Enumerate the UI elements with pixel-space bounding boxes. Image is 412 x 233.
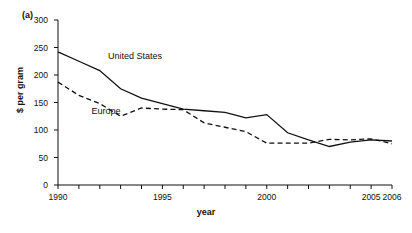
y-tick-label: 150: [20, 99, 48, 107]
series-label-europe: Europe: [91, 106, 120, 116]
chart-figure: (a) $ per gram year 050100150200250300 1…: [0, 0, 412, 233]
y-tick-label: 100: [20, 126, 48, 134]
y-tick-label: 300: [20, 16, 48, 24]
x-tick-label: 2006: [372, 193, 412, 201]
chart-axes: [58, 20, 392, 185]
series-line-united-states: [58, 52, 392, 147]
y-tick-label: 250: [20, 44, 48, 52]
axis-ticks: [54, 20, 392, 189]
y-tick-label: 50: [20, 154, 48, 162]
x-axis-title: year: [0, 207, 412, 217]
x-tick-label: 1995: [142, 193, 182, 201]
series-label-united-states: United States: [108, 51, 162, 61]
y-tick-label: 200: [20, 71, 48, 79]
y-axis-title: $ per gram: [15, 50, 25, 130]
y-tick-label: 0: [20, 181, 48, 189]
x-tick-label: 1990: [38, 193, 78, 201]
x-tick-label: 2000: [247, 193, 287, 201]
